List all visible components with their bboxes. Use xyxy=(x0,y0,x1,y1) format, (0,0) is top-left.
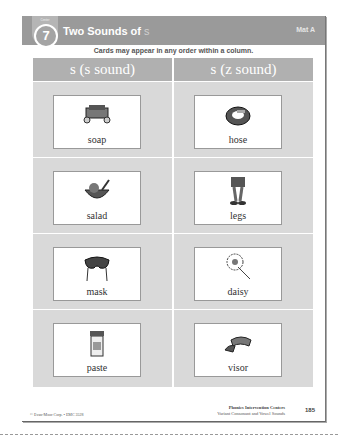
column-heading-s-sound: s (s sound) xyxy=(33,58,172,81)
column-heading-z-sound: s (z sound) xyxy=(174,58,313,81)
visor-icon xyxy=(223,328,253,358)
picture-card-legs[interactable]: legs xyxy=(194,171,282,225)
center-number-badge: 7 xyxy=(34,24,58,48)
card-slot: mask xyxy=(33,234,172,309)
picture-card-mask[interactable]: mask xyxy=(53,247,141,301)
mat-label: Mat A xyxy=(296,26,315,33)
instructions: Cards may appear in any order within a c… xyxy=(22,47,325,54)
paste-jar-icon xyxy=(82,328,112,358)
series-info: Phonics Intervention Centers Variant Con… xyxy=(217,405,285,417)
card-word: salad xyxy=(54,210,140,221)
series-title: Phonics Intervention Centers xyxy=(229,405,285,410)
card-slot: salad xyxy=(33,158,172,233)
legs-icon xyxy=(223,176,253,206)
mask-icon xyxy=(82,252,112,282)
page-title: Two Sounds of s xyxy=(63,25,150,37)
picture-card-soap[interactable]: soap xyxy=(53,95,141,149)
card-word: daisy xyxy=(195,286,281,297)
card-word: soap xyxy=(54,134,140,145)
title-text: Two Sounds of xyxy=(63,25,141,37)
page-number: 185 xyxy=(305,407,315,413)
daisy-icon xyxy=(223,252,253,282)
salad-icon xyxy=(82,176,112,206)
card-slot: legs xyxy=(174,158,313,233)
title-letter: s xyxy=(144,25,150,37)
hose-icon xyxy=(223,100,253,130)
card-word: paste xyxy=(54,362,140,373)
picture-card-salad[interactable]: salad xyxy=(53,171,141,225)
card-slot: hose xyxy=(174,82,313,157)
picture-card-visor[interactable]: visor xyxy=(194,323,282,377)
card-slot: soap xyxy=(33,82,172,157)
mat-page: Center 7 Two Sounds of s Mat A Cards may… xyxy=(22,16,326,422)
picture-card-paste[interactable]: paste xyxy=(53,323,141,377)
card-slot: daisy xyxy=(174,234,313,309)
soap-icon xyxy=(82,100,112,130)
card-slot: visor xyxy=(174,310,313,387)
copyright: © Evan-Moor Corp. • EMC 3528 xyxy=(30,412,84,417)
card-word: visor xyxy=(195,362,281,373)
card-word: mask xyxy=(54,286,140,297)
card-slot: paste xyxy=(33,310,172,387)
header-band: Center 7 Two Sounds of s Mat A xyxy=(22,16,325,45)
series-subtitle: Variant Consonant and Vowel Sounds xyxy=(217,411,285,416)
picture-card-hose[interactable]: hose xyxy=(194,95,282,149)
picture-card-daisy[interactable]: daisy xyxy=(194,247,282,301)
cut-line xyxy=(0,434,338,435)
center-label: Center xyxy=(34,18,56,22)
card-word: hose xyxy=(195,134,281,145)
card-word: legs xyxy=(195,210,281,221)
